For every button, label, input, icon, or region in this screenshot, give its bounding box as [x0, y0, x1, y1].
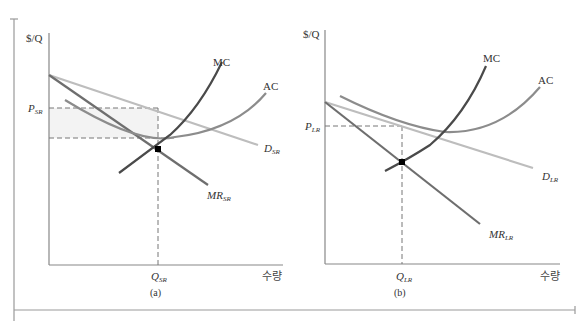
demand-label-a: DSR — [263, 142, 280, 156]
ac-label-b: AC — [538, 74, 553, 86]
caption-b: (b) — [394, 287, 406, 299]
x-axis-label-a: 수량 — [262, 270, 282, 283]
mr-label-b: MRLR — [488, 228, 514, 242]
mc-label-b: MC — [483, 52, 500, 64]
demand-curve-b — [325, 102, 533, 168]
equilibrium-point-a — [155, 146, 161, 152]
x-axis-label-b: 수량 — [540, 270, 560, 283]
mr-label-a: MRSR — [206, 189, 231, 203]
demand-label-b: DLR — [541, 170, 559, 184]
mc-curve-b — [385, 66, 486, 171]
y-axis-label-b: $/Q — [303, 28, 320, 40]
quantity-label-b: QLR — [396, 270, 413, 284]
quantity-label-a: QSR — [151, 270, 167, 284]
ac-label-a: AC — [263, 80, 278, 92]
panel-b: $/Q PLR QLR 수량 MC AC DLR MRLR (b) — [303, 28, 560, 299]
caption-a: (a) — [150, 287, 161, 299]
ac-curve-b — [340, 87, 540, 132]
equilibrium-point-b — [399, 159, 405, 165]
panel-a: $/Q PSR QSR 수량 MC AC DSR MRSR (a) — [26, 32, 283, 299]
monopoly-cost-diagram: $/Q PSR QSR 수량 MC AC DSR MRSR (a) $/Q PL… — [0, 0, 582, 321]
mc-label-a: MC — [213, 56, 230, 68]
y-axis-label-a: $/Q — [26, 32, 43, 44]
price-label-b: PLR — [304, 120, 321, 134]
price-label-a: PSR — [27, 102, 43, 116]
